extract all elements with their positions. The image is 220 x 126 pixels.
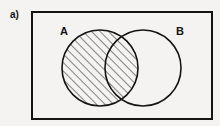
venn-diagram-figure: a) A B (0, 0, 220, 126)
venn-diagram-canvas (0, 0, 220, 126)
set-a-label: A (60, 26, 68, 37)
set-b-label: B (176, 26, 184, 37)
set-a-shaded-region (59, 27, 141, 109)
part-label: a) (10, 10, 19, 20)
